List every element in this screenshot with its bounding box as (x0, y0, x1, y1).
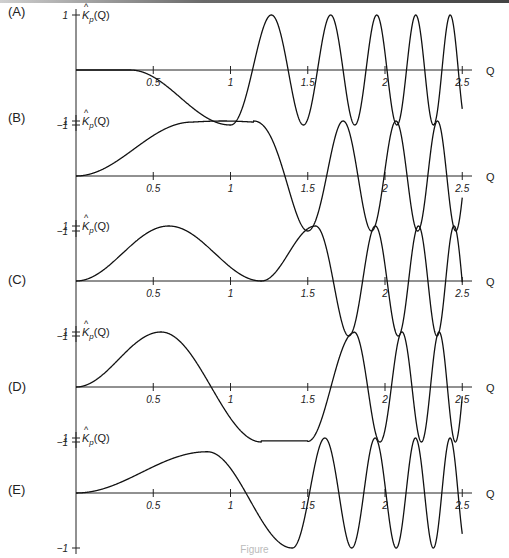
figure-caption: Figure (0, 544, 509, 555)
x-tick-label: 1.5 (301, 77, 315, 88)
figure: (A)1−1Kp(Q)^0.511.522.5Q(B)1−1Kp(Q)^0.51… (0, 0, 509, 558)
x-tick-label: 0.5 (146, 500, 160, 511)
x-tick-label: 1 (228, 394, 234, 405)
panel-e: (E)1−1Kp(Q)^0.511.522.5Q (8, 425, 495, 554)
panel-d: (D)1−1Kp(Q)^0.511.522.5Q (8, 319, 495, 448)
x-tick-label: 2.5 (454, 500, 469, 511)
x-axis-label: Q (486, 382, 495, 394)
x-tick-label: 2.5 (454, 183, 469, 194)
x-axis-label: Q (486, 488, 495, 500)
x-tick-label: 1 (228, 500, 234, 511)
x-tick-label: 2 (381, 77, 388, 88)
panel-a: (A)1−1Kp(Q)^0.511.522.5Q (8, 2, 495, 131)
x-tick-label: 2.5 (454, 288, 469, 299)
y-tick-label: 1 (62, 327, 68, 338)
x-tick-label: 1 (228, 77, 234, 88)
x-tick-label: 1.5 (301, 288, 315, 299)
panel-b: (B)1−1Kp(Q)^0.511.522.5Q (8, 108, 495, 237)
x-tick-label: 2 (381, 394, 388, 405)
panel-label: (D) (8, 379, 26, 394)
y-tick-label: 1 (62, 10, 68, 21)
panel-label: (A) (8, 4, 25, 19)
x-axis-label: Q (486, 171, 495, 183)
panel-label: (B) (8, 110, 25, 125)
y-tick-label: 1 (62, 116, 68, 127)
x-tick-label: 0.5 (146, 183, 160, 194)
x-tick-label: 0.5 (146, 77, 160, 88)
x-tick-label: 2 (381, 288, 388, 299)
x-axis-label: Q (486, 65, 495, 77)
y-tick-label: 1 (62, 221, 68, 232)
panel-c: (C)1−1Kp(Q)^0.511.522.5Q (8, 213, 495, 342)
panel-label: (E) (8, 482, 25, 497)
x-tick-label: 2.5 (454, 77, 469, 88)
x-tick-label: 1.5 (301, 183, 315, 194)
x-tick-label: 1 (228, 288, 234, 299)
x-tick-label: 1.5 (301, 394, 315, 405)
x-axis-label: Q (486, 276, 495, 288)
x-tick-label: 0.5 (146, 288, 160, 299)
x-tick-label: 1 (228, 183, 234, 194)
x-tick-label: 0.5 (146, 394, 160, 405)
panel-label: (C) (8, 272, 26, 287)
y-tick-label: 1 (62, 433, 68, 444)
